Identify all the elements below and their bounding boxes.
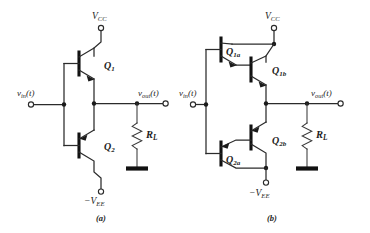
- panel-b-q1b-collector-lead: [266, 44, 274, 62]
- panel-b-emitter-node-dot: [264, 101, 268, 105]
- panel-a-q1-emitter-lead: [79, 70, 94, 79]
- panel-b-q2b-collector-lead: [251, 144, 266, 166]
- panel-b-q1a-collector-slant: [221, 43, 232, 44]
- panel-a-output-terminal[interactable]: [163, 101, 168, 106]
- panel-b-output-terminal[interactable]: [338, 101, 343, 106]
- panel-a-rl-zigzag: [132, 123, 142, 149]
- panel-a-vcc-lead: [94, 31, 101, 56]
- panel-b-input-terminal[interactable]: [190, 102, 195, 107]
- panel-a-schematic: [28, 25, 168, 194]
- panel-b-q1a-emitter-lead: [221, 56, 236, 65]
- panel-b-q2a-collector-lead: [221, 160, 266, 168]
- panel-b-rl-zigzag: [302, 123, 312, 149]
- panel-b-input-node-dot: [204, 102, 208, 106]
- panel-b-schematic: [190, 25, 343, 185]
- panel-b-q1a-to-q1b-base: [236, 65, 251, 70]
- panel-a-q2-collector-lead: [79, 152, 101, 189]
- circuit-schematic-canvas: [0, 0, 370, 233]
- panel-a-q1-collector-lead: [79, 48, 94, 57]
- panel-a-input-terminal[interactable]: [28, 102, 33, 107]
- panel-b-vcc-terminal[interactable]: [271, 25, 276, 30]
- panel-b-q1b-collector-slant: [251, 56, 266, 63]
- panel-b-q1b-emitter-lead: [251, 76, 266, 85]
- panel-a-vee-terminal[interactable]: [98, 189, 103, 194]
- panel-b-vee-terminal[interactable]: [263, 180, 268, 185]
- figure-root: VCC −VEE vin(t) vout(t) Q1 Q2 RL (a) VCC…: [0, 0, 370, 233]
- panel-a-input-node-dot: [62, 102, 66, 106]
- panel-a-emitter-node-dot: [92, 101, 96, 105]
- panel-a-vcc-terminal[interactable]: [98, 25, 103, 30]
